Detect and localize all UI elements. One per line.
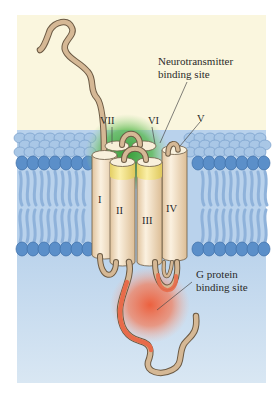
lipid-head xyxy=(203,156,215,170)
lipid-tail xyxy=(237,210,239,242)
lipid-tail xyxy=(76,172,78,205)
lipid-head xyxy=(71,242,83,256)
lipid-tail xyxy=(34,210,36,242)
gpcr-diagram: Neurotransmitter binding site VII VI V I… xyxy=(0,0,280,398)
lipid-tail xyxy=(258,172,260,205)
lipid-head xyxy=(16,242,28,256)
lipid-tail xyxy=(83,210,85,242)
lipid-tail xyxy=(223,172,225,205)
lipid-head xyxy=(192,156,204,170)
lipid-tail xyxy=(41,172,43,205)
lipid-tail xyxy=(209,210,211,242)
lipid-tail xyxy=(62,172,64,205)
lipid-head xyxy=(27,242,39,256)
helix-label-iii: III xyxy=(142,215,153,226)
lipid-head xyxy=(60,242,72,256)
helix-i-top xyxy=(92,151,117,160)
lipid-tail xyxy=(265,210,267,242)
lipid-head xyxy=(225,156,237,170)
helix-label-vi: VI xyxy=(148,115,160,126)
lipid-head xyxy=(214,242,226,256)
lipid-head xyxy=(247,242,259,256)
lipid-head xyxy=(60,156,72,170)
lipid-head xyxy=(38,242,50,256)
lipid-head xyxy=(71,156,83,170)
lipid-head xyxy=(203,242,215,256)
lipid-tail xyxy=(223,210,225,242)
lipid-tail xyxy=(83,172,85,205)
lipid-tail xyxy=(48,172,50,205)
lipid-tail xyxy=(202,172,204,205)
lipid-tail xyxy=(20,210,22,242)
lipid-head xyxy=(49,156,61,170)
helix-iii xyxy=(137,158,162,267)
lipid-tail xyxy=(251,210,253,242)
helix-label-iv: IV xyxy=(166,203,177,214)
lipid-tail xyxy=(230,172,232,205)
g-protein-label-line1: G protein xyxy=(196,268,238,280)
lipid-tail xyxy=(258,210,260,242)
lipid-tail xyxy=(41,210,43,242)
lipid-head xyxy=(214,156,226,170)
lipid-tail xyxy=(244,172,246,205)
lipid-head xyxy=(192,242,204,256)
lipid-head xyxy=(247,156,259,170)
lipid-tail xyxy=(251,172,253,205)
helix-label-vii: VII xyxy=(100,115,115,126)
helix-label-ii: II xyxy=(116,205,123,216)
lipid-tail xyxy=(209,172,211,205)
lipid-tail xyxy=(69,172,71,205)
neurotransmitter-label-line1: Neurotransmitter xyxy=(158,55,233,67)
lipid-head xyxy=(236,242,248,256)
lipid-tail xyxy=(265,172,267,205)
lipid-tail xyxy=(244,210,246,242)
helix-label-v: V xyxy=(197,113,205,124)
lipid-head xyxy=(225,242,237,256)
lipid-tail xyxy=(202,210,204,242)
g-protein-label-line2: binding site xyxy=(196,281,248,293)
lipid-tail xyxy=(27,172,29,205)
helix-iii-top xyxy=(137,158,162,167)
lipid-tail xyxy=(20,172,22,205)
lipid-tail xyxy=(230,210,232,242)
lipid-head xyxy=(27,156,39,170)
lipid-tail xyxy=(216,210,218,242)
lipid-head xyxy=(254,147,266,157)
lipid-tail xyxy=(48,210,50,242)
lipid-tail xyxy=(216,172,218,205)
lipid-head xyxy=(258,242,270,256)
lipid-tail xyxy=(237,172,239,205)
lipid-tail xyxy=(27,210,29,242)
lipid-tail xyxy=(34,172,36,205)
lipid-tail xyxy=(76,210,78,242)
lipid-head xyxy=(258,156,270,170)
helix-label-i: I xyxy=(98,194,102,205)
lipid-head xyxy=(38,156,50,170)
lipid-tail xyxy=(62,210,64,242)
lipid-tail xyxy=(55,172,57,205)
neurotransmitter-label-line2: binding site xyxy=(158,68,210,80)
lipid-tail xyxy=(69,210,71,242)
lipid-head xyxy=(236,156,248,170)
lipid-head xyxy=(49,242,61,256)
lipid-head xyxy=(16,156,28,170)
lipid-tail xyxy=(55,210,57,242)
